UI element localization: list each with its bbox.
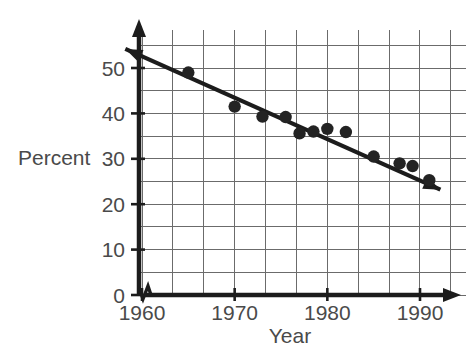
data-point-marker — [321, 123, 333, 135]
x-axis-title: Year — [269, 324, 311, 347]
scatter-plot-with-trend-line: 01020304050 1960197019801990 Percent Yea… — [0, 0, 473, 356]
data-point-marker — [256, 110, 268, 122]
data-point-marker — [228, 100, 240, 112]
data-point-marker — [279, 111, 291, 123]
data-point-marker — [423, 174, 435, 186]
data-point-marker — [307, 125, 319, 137]
data-point-marker — [182, 66, 194, 78]
data-point-marker — [367, 150, 379, 162]
x-tick-label: 1960 — [119, 301, 166, 324]
y-tick-label: 30 — [102, 147, 125, 170]
y-tick-label: 50 — [102, 57, 125, 80]
chart-container: 01020304050 1960197019801990 Percent Yea… — [0, 0, 473, 356]
y-axis-title: Percent — [18, 146, 91, 169]
data-point-marker — [293, 127, 305, 139]
y-tick-label: 40 — [102, 102, 125, 125]
y-tick-label: 20 — [102, 193, 125, 216]
x-tick-label: 1990 — [397, 301, 444, 324]
x-tick-label: 1970 — [211, 301, 258, 324]
data-point-marker — [340, 126, 352, 138]
data-point-marker — [393, 157, 405, 169]
x-tick-label: 1980 — [304, 301, 351, 324]
data-point-marker — [406, 160, 418, 172]
y-tick-label: 10 — [102, 238, 125, 261]
